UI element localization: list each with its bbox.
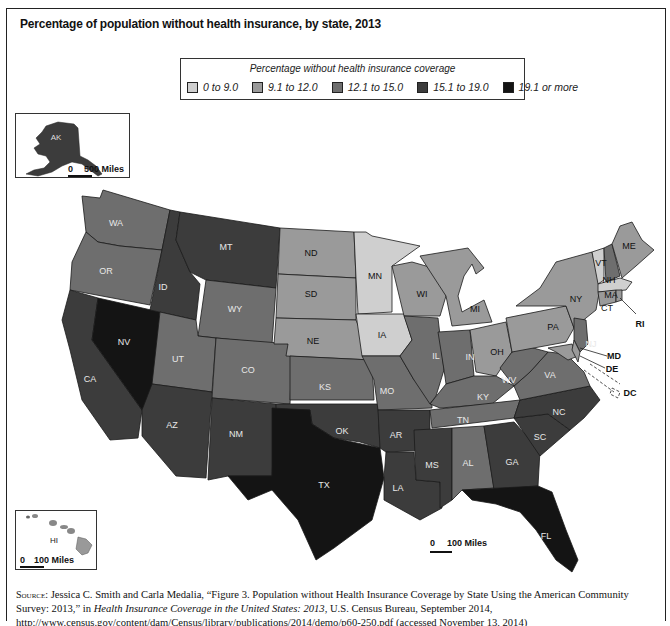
svg-text:MI: MI (470, 304, 480, 314)
svg-text:WY: WY (228, 304, 243, 314)
scale-label: 100 Miles (447, 538, 487, 548)
svg-text:VT: VT (595, 258, 607, 268)
svg-text:KY: KY (477, 392, 489, 402)
svg-text:ND: ND (305, 248, 318, 258)
svg-text:CA: CA (84, 374, 97, 384)
svg-text:DC: DC (624, 388, 637, 398)
svg-text:WI: WI (417, 289, 428, 299)
svg-text:MD: MD (607, 351, 621, 361)
main-scale-bar (430, 551, 452, 553)
svg-text:TN: TN (457, 415, 469, 425)
svg-text:FL: FL (541, 531, 552, 541)
source-label: Source: (16, 589, 48, 600)
svg-text:NY: NY (570, 294, 583, 304)
svg-text:CO: CO (241, 365, 255, 375)
svg-text:WA: WA (109, 218, 123, 228)
svg-text:CT: CT (601, 303, 613, 313)
svg-text:SD: SD (305, 289, 318, 299)
svg-text:NV: NV (118, 337, 131, 347)
state-az (142, 384, 212, 478)
svg-text:LA: LA (392, 483, 403, 493)
svg-text:MO: MO (380, 386, 395, 396)
svg-text:IL: IL (432, 351, 440, 361)
svg-text:IN: IN (466, 352, 475, 362)
svg-text:SC: SC (534, 432, 547, 442)
svg-text:ID: ID (159, 282, 169, 292)
svg-text:RI: RI (636, 319, 645, 329)
svg-text:DE: DE (606, 364, 619, 374)
svg-text:AR: AR (390, 430, 403, 440)
svg-text:ME: ME (622, 241, 636, 251)
svg-text:OK: OK (335, 426, 348, 436)
svg-text:OR: OR (99, 266, 113, 276)
svg-text:UT: UT (172, 354, 184, 364)
svg-text:NH: NH (603, 275, 616, 285)
source-publication: Health Insurance Coverage in the United … (94, 603, 325, 614)
svg-text:NM: NM (229, 429, 243, 439)
svg-text:PA: PA (547, 322, 558, 332)
svg-text:WV: WV (502, 375, 517, 385)
svg-text:VA: VA (544, 370, 555, 380)
svg-text:GA: GA (505, 457, 518, 467)
us-choropleth-map: WAORCA NVIDMT WYUTCO AZNMTX KSOKMO ARLAI… (0, 0, 670, 585)
svg-text:IA: IA (378, 330, 387, 340)
svg-text:MN: MN (368, 271, 382, 281)
svg-text:AZ: AZ (166, 420, 178, 430)
svg-text:NC: NC (553, 407, 566, 417)
svg-text:MA: MA (604, 290, 618, 300)
svg-text:NE: NE (307, 336, 320, 346)
svg-text:NJ: NJ (586, 339, 597, 349)
state-ks (290, 356, 374, 400)
svg-text:AL: AL (462, 458, 473, 468)
svg-text:OH: OH (490, 347, 504, 357)
state-fl (462, 486, 578, 572)
svg-text:MT: MT (220, 242, 233, 252)
source-citation: Source: Jessica C. Smith and Carla Medal… (16, 588, 664, 626)
svg-text:KS: KS (319, 382, 331, 392)
svg-text:MS: MS (425, 460, 439, 470)
scale-zero: 0 (430, 538, 435, 548)
svg-text:TX: TX (318, 480, 330, 490)
state-nm (208, 398, 276, 480)
